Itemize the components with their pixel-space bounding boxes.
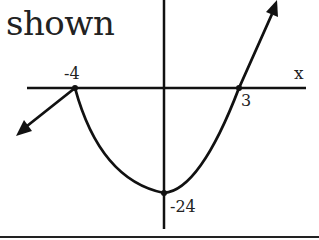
root-right-label: 3 <box>241 91 251 110</box>
root-left-label: -4 <box>64 64 80 83</box>
graph <box>0 0 319 240</box>
y-intercept-label: -24 <box>170 197 196 216</box>
point-y-intercept <box>161 190 167 196</box>
curve <box>22 14 272 193</box>
arrow-right-icon <box>266 0 278 17</box>
point-root-left <box>72 85 78 91</box>
x-axis-label: x <box>294 63 304 83</box>
